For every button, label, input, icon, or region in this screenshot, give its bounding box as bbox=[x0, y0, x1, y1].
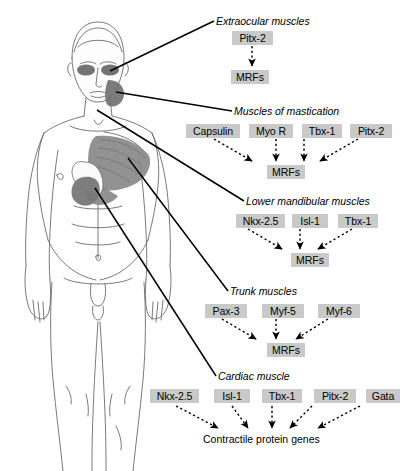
section-heading-mastication: Muscles of mastication bbox=[234, 105, 339, 117]
gene-node-myf5[interactable]: Myf-5 bbox=[262, 304, 304, 318]
gene-node-pitx2-mastication[interactable]: Pitx-2 bbox=[350, 124, 392, 138]
gene-node-tbx1-mandibular[interactable]: Tbx-1 bbox=[338, 214, 378, 228]
gene-node-isl1-mandibular[interactable]: Isl-1 bbox=[292, 214, 328, 228]
gene-node-isl1-cardiac[interactable]: Isl-1 bbox=[214, 389, 250, 403]
section-heading-cardiac: Cardiac muscle bbox=[218, 370, 290, 382]
gene-node-gata[interactable]: Gata bbox=[366, 389, 400, 403]
target-node-mrfs-mandibular[interactable]: MRFs bbox=[291, 253, 329, 267]
target-node-mrfs-mastication[interactable]: MRFs bbox=[267, 165, 305, 179]
gene-node-myor[interactable]: Myo R bbox=[249, 124, 293, 138]
leader-lines bbox=[95, 21, 244, 376]
section-heading-extraocular: Extraocular muscles bbox=[216, 15, 310, 27]
gene-node-pitx2-cardiac[interactable]: Pitx-2 bbox=[314, 389, 356, 403]
section-heading-trunk: Trunk muscles bbox=[230, 285, 297, 297]
target-node-contractile-protein-genes: Contractile protein genes bbox=[203, 433, 320, 446]
gene-node-pitx2-extraocular[interactable]: Pitx-2 bbox=[232, 31, 273, 45]
gene-node-nkx25-cardiac[interactable]: Nkx-2.5 bbox=[150, 389, 199, 403]
target-node-mrfs-extraocular[interactable]: MRFs bbox=[231, 70, 269, 84]
gene-node-nkx25-mandibular[interactable]: Nkx-2.5 bbox=[236, 214, 285, 228]
target-node-mrfs-trunk[interactable]: MRFs bbox=[267, 343, 305, 357]
section-heading-mandibular: Lower mandibular muscles bbox=[246, 195, 370, 207]
gene-node-tbx1-cardiac[interactable]: Tbx-1 bbox=[262, 389, 302, 403]
gene-node-capsulin[interactable]: Capsulin bbox=[186, 124, 240, 138]
gene-node-tbx1-mastication[interactable]: Tbx-1 bbox=[302, 124, 342, 138]
gene-node-myf6[interactable]: Myf-6 bbox=[318, 304, 360, 318]
gene-node-pax3[interactable]: Pax-3 bbox=[205, 304, 247, 318]
